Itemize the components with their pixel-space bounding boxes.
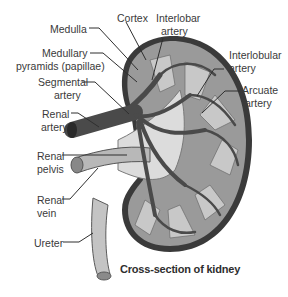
- label-interlobar-artery-2: artery: [161, 25, 188, 37]
- label-ureter: Ureter: [34, 237, 63, 249]
- label-arcuate-artery-2: artery: [245, 97, 272, 109]
- label-segmental-artery-1: Segmental: [38, 76, 88, 88]
- renal-artery-opening: [67, 122, 77, 138]
- kidney-illustration: [0, 0, 288, 297]
- label-segmental-artery-2: artery: [54, 89, 81, 101]
- label-interlobar-artery-1: Interlobar: [156, 12, 200, 24]
- diagram-caption: Cross-section of kidney: [120, 263, 240, 275]
- label-cortex: Cortex: [117, 12, 148, 24]
- label-medulla: Medulla: [50, 23, 87, 35]
- ureter-tube: [92, 198, 111, 280]
- label-renal-artery-2: artery: [41, 121, 68, 133]
- label-interlobular-artery-2: artery: [229, 62, 256, 74]
- label-renal-artery-1: Renal: [42, 108, 69, 120]
- label-renal-pelvis-1: Renal: [37, 150, 64, 162]
- label-renal-vein-1: Renal: [37, 194, 64, 206]
- label-medullary-pyramids-2: pyramids (papillae): [16, 60, 105, 72]
- label-renal-pelvis-2: pelvis: [37, 163, 64, 175]
- label-interlobular-artery-1: Interlobular: [229, 49, 282, 61]
- label-arcuate-artery-1: Arcuate: [242, 84, 278, 96]
- label-renal-vein-2: vein: [37, 207, 56, 219]
- label-medullary-pyramids-1: Medullary: [42, 47, 88, 59]
